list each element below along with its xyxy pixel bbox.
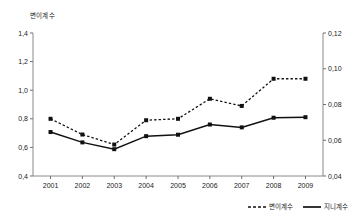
data-point-marker (144, 134, 148, 138)
legend-label-gini-coefficient: 지니계수 (324, 204, 348, 211)
x-tick-label: 2004 (138, 182, 154, 189)
legend-swatch-solid (303, 204, 321, 210)
data-point-marker (112, 147, 116, 151)
legend-item-1: 지니계수 (303, 204, 348, 211)
legend-label-variation-coefficient: 변이계수 (269, 204, 293, 211)
y-tick-label-left: 1,2 (18, 58, 28, 65)
x-axis: 200120022003200420052006200720082009 (33, 176, 323, 189)
x-tick-label: 2008 (266, 182, 282, 189)
x-tick-label: 2001 (43, 182, 59, 189)
chart-plot-area: 0,40,60,81,01,21,4 0,040,060,080,100,12 … (0, 0, 354, 214)
data-point-marker (176, 117, 180, 121)
data-point-marker (80, 140, 84, 144)
chart-container: 변이계수 0,40,60,81,01,21,4 0,040,060,080,10… (0, 0, 354, 214)
right-axis: 0,040,060,080,100,12 (323, 30, 342, 180)
data-point-marker (240, 104, 244, 108)
left-axis: 0,40,60,81,01,21,4 (18, 30, 33, 180)
x-tick-label: 2005 (170, 182, 186, 189)
x-tick-label: 2009 (298, 182, 314, 189)
x-tick-label: 2007 (234, 182, 250, 189)
data-point-marker (144, 118, 148, 122)
legend-item-0: 변이계수 (248, 204, 293, 211)
data-point-marker (272, 77, 276, 81)
y-tick-label-right: 0,08 (328, 101, 342, 108)
data-point-marker (272, 116, 276, 120)
legend-swatch-dashed (248, 204, 266, 210)
y-tick-label-left: 1,0 (18, 87, 28, 94)
y-tick-label-right: 0,10 (328, 65, 342, 72)
y-tick-label-right: 0,06 (328, 137, 342, 144)
y-tick-label-right: 0,04 (328, 173, 342, 180)
data-series-group (49, 77, 308, 151)
y-tick-label-left: 0,8 (18, 115, 28, 122)
data-point-marker (80, 133, 84, 137)
data-point-marker (176, 133, 180, 137)
y-tick-label-left: 0,4 (18, 173, 28, 180)
y-tick-label-right: 0,12 (328, 30, 342, 37)
data-point-marker (208, 123, 212, 127)
x-tick-label: 2006 (202, 182, 218, 189)
data-point-marker (208, 97, 212, 101)
data-point-marker (303, 115, 307, 119)
y-tick-label-left: 0,6 (18, 144, 28, 151)
data-point-marker (303, 77, 307, 81)
chart-legend: 변이계수 지니계수 (248, 204, 348, 211)
x-tick-label: 2003 (106, 182, 122, 189)
y-tick-label-left: 1,4 (18, 30, 28, 37)
data-point-marker (49, 117, 53, 121)
data-point-marker (240, 125, 244, 129)
x-tick-label: 2002 (75, 182, 91, 189)
data-point-marker (112, 143, 116, 147)
data-point-marker (49, 130, 53, 134)
